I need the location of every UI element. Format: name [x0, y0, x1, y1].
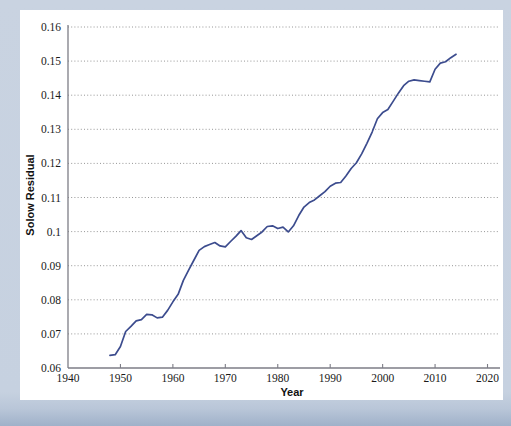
x-tick-label: 1950	[109, 372, 132, 384]
y-tick-label: 0.14	[41, 89, 61, 101]
y-tick-labels: 0.060.070.080.090.10.110.120.130.140.150…	[41, 21, 61, 374]
y-tick-label: 0.08	[41, 294, 61, 306]
x-tick-label: 2010	[424, 372, 447, 384]
x-tick-label: 2000	[371, 372, 394, 384]
x-tick-label: 1980	[266, 372, 289, 384]
y-tick-label: 0.13	[41, 123, 61, 135]
series-solow-residual	[110, 54, 456, 355]
x-tick-labels: 194019501960197019801990200020102020	[57, 372, 500, 384]
x-tick-label: 1960	[161, 372, 184, 384]
y-tick-label: 0.16	[41, 21, 61, 33]
y-axis-title: Solow Residual	[24, 154, 36, 235]
chart-panel: 194019501960197019801990200020102020 0.0…	[20, 10, 503, 400]
y-tick-label: 0.06	[41, 362, 61, 374]
y-tick-label: 0.09	[41, 260, 61, 272]
axes	[68, 25, 500, 368]
solow-residual-line-chart: 194019501960197019801990200020102020 0.0…	[20, 10, 503, 400]
x-axis-title: Year	[280, 386, 304, 398]
x-tick-label: 1990	[319, 372, 342, 384]
y-tick-label: 0.12	[41, 157, 61, 169]
y-tick-label: 0.15	[41, 55, 61, 67]
x-tick-label: 2020	[476, 372, 499, 384]
y-tick-label: 0.1	[47, 226, 62, 238]
y-tick-label: 0.11	[41, 192, 61, 204]
data-series-group	[110, 54, 456, 355]
figure-frame: 194019501960197019801990200020102020 0.0…	[0, 0, 511, 426]
y-tick-label: 0.07	[41, 328, 61, 340]
x-tick-label: 1970	[214, 372, 237, 384]
